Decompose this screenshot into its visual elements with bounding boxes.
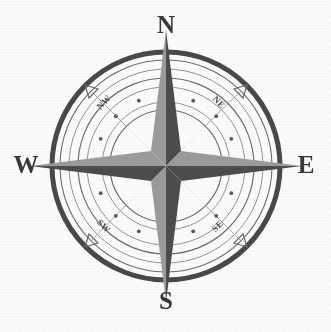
- compass-rose-graphic: [0, 0, 331, 332]
- spoke-ne: [205, 91, 241, 126]
- ring-dot: [191, 99, 195, 103]
- star-major-points: [30, 30, 302, 302]
- cardinal-label-east: E: [292, 152, 320, 177]
- ring-dot: [114, 114, 118, 118]
- ring-dot: [114, 214, 118, 218]
- cardinal-label-west: W: [12, 152, 40, 177]
- ring-dot: [99, 137, 103, 141]
- ring-dot: [137, 99, 141, 103]
- cardinal-label-south: S: [152, 288, 180, 313]
- ring-dot: [214, 114, 218, 118]
- compass-rose-figure: N E S W NE SE SW NW: [0, 0, 331, 332]
- ring-dot: [191, 229, 195, 233]
- cardinal-label-north: N: [152, 12, 180, 37]
- ring-dot: [99, 191, 103, 195]
- ring-dot: [137, 229, 141, 233]
- ring-dot: [229, 191, 233, 195]
- ring-dot: [229, 137, 233, 141]
